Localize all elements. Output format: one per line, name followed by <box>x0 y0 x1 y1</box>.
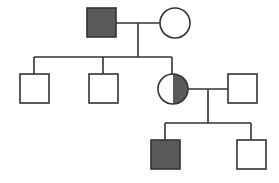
individual-III-1-affected-male <box>151 140 180 169</box>
individual-I-1-affected-male <box>87 8 116 37</box>
individual-II-2-male <box>89 74 118 103</box>
individual-II-3-carrier-female <box>158 74 188 104</box>
pedigree-chart <box>0 0 279 183</box>
individual-II-4-spouse-male <box>228 74 257 103</box>
individual-III-2-male <box>237 140 266 169</box>
individual-I-2-female <box>160 8 190 38</box>
connector-lines <box>34 23 251 140</box>
half-shaded-fill <box>173 74 188 104</box>
individual-II-1-male <box>20 74 49 103</box>
